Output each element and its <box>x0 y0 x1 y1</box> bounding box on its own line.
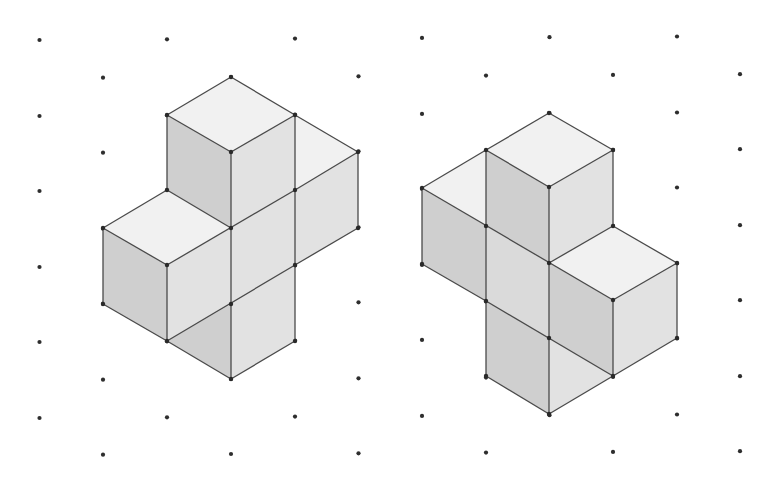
grid-dot <box>420 36 424 40</box>
cube-vertex <box>547 185 551 189</box>
grid-dot <box>37 38 41 42</box>
cube-vertex <box>484 224 488 228</box>
grid-dot <box>37 265 41 269</box>
cube-vertex <box>611 374 615 378</box>
grid-dot <box>675 185 679 189</box>
grid-dot <box>37 340 41 344</box>
cube-vertex <box>229 226 233 230</box>
grid-dot <box>165 37 169 41</box>
grid-dot <box>484 451 488 455</box>
cube-vertex <box>293 113 297 117</box>
cube-vertex <box>675 336 679 340</box>
grid-dot <box>37 114 41 118</box>
grid-dot <box>420 112 424 116</box>
grid-dot <box>420 338 424 342</box>
cube-vertex <box>547 261 551 265</box>
cube-vertex <box>229 75 233 79</box>
cube-vertex <box>165 263 169 267</box>
grid-dot <box>165 415 169 419</box>
grid-dot <box>675 34 679 38</box>
grid-dot <box>356 376 360 380</box>
grid-dot <box>738 298 742 302</box>
grid-dot <box>738 223 742 227</box>
grid-dot <box>101 453 105 457</box>
cube-vertex <box>547 111 551 115</box>
grid-dot <box>547 35 551 39</box>
cube-vertex <box>229 302 233 306</box>
grid-dot <box>101 151 105 155</box>
grid-dot <box>37 189 41 193</box>
cube-vertex <box>484 299 488 303</box>
cube-vertex <box>293 339 297 343</box>
cube-vertex <box>101 226 105 230</box>
cube-vertex <box>611 298 615 302</box>
grid-dot <box>356 451 360 455</box>
cube-vertex <box>611 148 615 152</box>
cube-vertex <box>675 261 679 265</box>
cube-vertex <box>165 113 169 117</box>
cube-vertex <box>165 188 169 192</box>
grid-dot <box>738 374 742 378</box>
grid-dot <box>293 415 297 419</box>
grid-dot <box>738 449 742 453</box>
cube-vertex <box>229 150 233 154</box>
grid-dot <box>484 74 488 78</box>
cube-vertex <box>547 336 551 340</box>
cube-vertex <box>293 188 297 192</box>
grid-dot <box>37 416 41 420</box>
cube-vertex <box>420 186 424 190</box>
cube-vertex <box>420 262 424 266</box>
grid-dot <box>101 76 105 80</box>
cube-vertex <box>229 377 233 381</box>
grid-dot <box>101 378 105 382</box>
grid-dot <box>738 72 742 76</box>
grid-dot <box>675 110 679 114</box>
grid-dot <box>356 74 360 78</box>
grid-dot <box>229 452 233 456</box>
cube-vertex <box>356 150 360 154</box>
cube-vertex <box>356 226 360 230</box>
grid-dot <box>420 414 424 418</box>
grid-dot <box>356 300 360 304</box>
grid-dot <box>293 37 297 41</box>
grid-dot <box>675 412 679 416</box>
grid-dot <box>738 147 742 151</box>
cube-vertex <box>101 302 105 306</box>
cube-vertex <box>165 339 169 343</box>
cube-vertex <box>547 412 551 416</box>
grid-dot <box>611 450 615 454</box>
cube-vertex <box>484 374 488 378</box>
grid-dot <box>611 73 615 77</box>
isometric-dot-grid-diagram <box>0 0 783 477</box>
cube-vertex <box>293 263 297 267</box>
cube-vertex <box>611 224 615 228</box>
cube-vertex <box>484 148 488 152</box>
